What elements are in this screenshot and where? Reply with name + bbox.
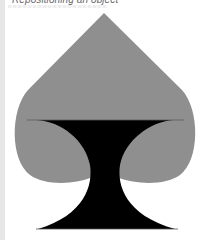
spade-figure (0, 0, 209, 240)
